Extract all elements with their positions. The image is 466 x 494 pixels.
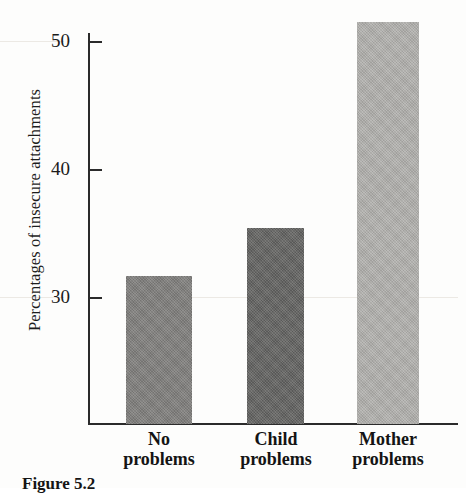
bar-no-problems[interactable] bbox=[126, 276, 192, 424]
y-axis-line bbox=[88, 33, 90, 425]
bar-child-problems[interactable] bbox=[247, 228, 304, 424]
y-tick-mark-40 bbox=[89, 169, 102, 171]
x-axis-label-line-1: Mother bbox=[313, 429, 463, 449]
y-tick-label-40: 40 bbox=[26, 159, 70, 178]
y-tick-label-30: 30 bbox=[26, 287, 70, 306]
y-tick-mark-30 bbox=[89, 297, 102, 299]
y-tick-mark-50 bbox=[89, 41, 102, 43]
bar-texture bbox=[247, 228, 304, 424]
figure-caption: Figure 5.2 bbox=[22, 474, 95, 494]
bar-texture bbox=[126, 276, 192, 424]
x-axis-label-line-2: problems bbox=[313, 449, 463, 469]
bar-texture bbox=[357, 22, 419, 424]
x-axis-label-mother-problems: Mother problems bbox=[313, 429, 463, 469]
y-axis-title: Percentages of insecure attachments bbox=[22, 10, 48, 410]
y-tick-label-50: 50 bbox=[26, 31, 70, 50]
bar-mother-problems[interactable] bbox=[357, 22, 419, 424]
